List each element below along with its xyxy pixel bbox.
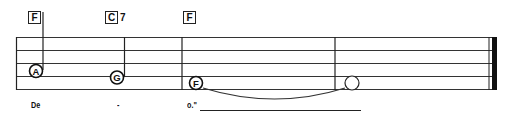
note-open-whole: [345, 76, 359, 90]
svg-text:G: G: [113, 72, 120, 83]
svg-text:F: F: [193, 78, 199, 89]
note-g: G: [111, 71, 124, 84]
lyric-syllable-de: De: [31, 100, 40, 110]
svg-text:A: A: [33, 66, 40, 77]
final-barline-thick: [492, 37, 497, 90]
lyric-hyphen: -: [117, 100, 119, 110]
music-staff: A G F: [0, 0, 524, 116]
note-a: A: [30, 65, 43, 78]
note-f: F: [190, 77, 203, 90]
staff-lines: [16, 38, 497, 90]
lyric-syllable-o: o.": [187, 100, 197, 110]
